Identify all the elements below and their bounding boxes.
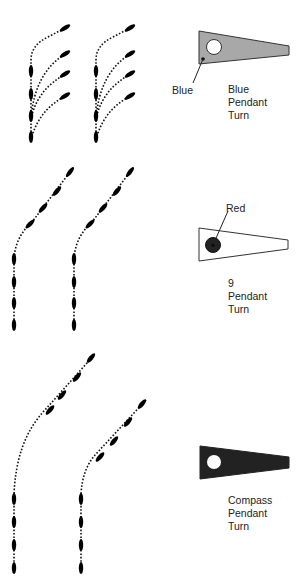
- compass-pendant-caption: Compass Pendant Turn: [228, 494, 272, 533]
- 9-pendant-flag-icon: [199, 211, 288, 261]
- 9-turn-column-1: [12, 166, 76, 331]
- 9-turn-column-2: [72, 166, 136, 331]
- blue-turn-column-2: [94, 23, 136, 143]
- blue-callout-label: Blue: [172, 84, 193, 97]
- red-callout-label: Red: [226, 202, 245, 215]
- blue-turn-column-1: [29, 23, 71, 143]
- compass-turn-column-1: [12, 352, 97, 574]
- blue-pendant-caption: Blue Pendant Turn: [228, 83, 267, 122]
- compass-turn-column-2: [79, 398, 148, 574]
- 9-pendant-caption: 9 Pendant Turn: [228, 277, 267, 316]
- blue-pendant-flag-icon: [193, 31, 289, 83]
- compass-pendant-flag-icon: [200, 446, 289, 479]
